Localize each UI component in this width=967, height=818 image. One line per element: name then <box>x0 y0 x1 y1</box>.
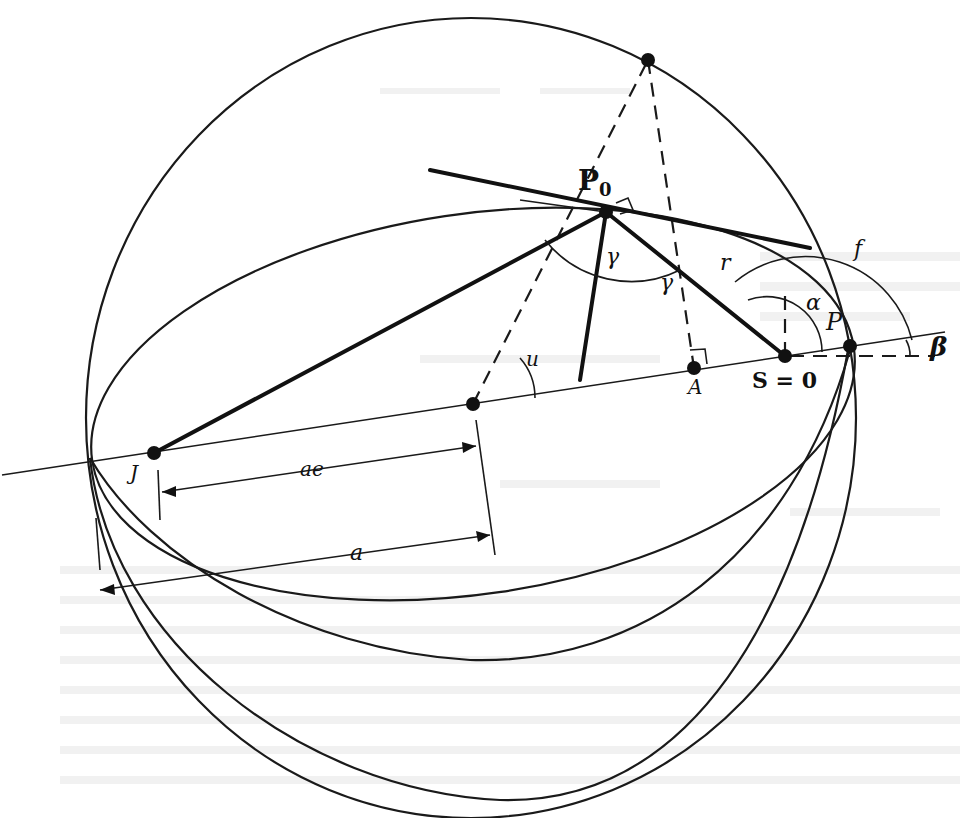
orbit-diagram: P0 P S = 0 A J ae a u γ γ r f α β <box>0 0 967 818</box>
label-a-point: A <box>686 375 702 399</box>
label-beta: β <box>929 332 947 362</box>
label-s: S = 0 <box>752 367 817 393</box>
point-s <box>778 349 792 363</box>
label-gamma-mid: γ <box>660 270 674 295</box>
label-p0: P0 <box>578 164 612 200</box>
point-p0 <box>599 205 613 219</box>
label-a: a <box>350 540 363 565</box>
point-a <box>687 361 701 375</box>
arrowhead-a-left <box>100 584 115 595</box>
line-p0-down <box>580 212 606 380</box>
label-u: u <box>526 347 539 371</box>
angle-beta-arc <box>906 340 910 356</box>
tangent-at-p0 <box>430 170 810 248</box>
point-p <box>843 339 857 353</box>
line-j-to-p0 <box>154 212 606 453</box>
arrowhead-ae-right <box>462 442 476 453</box>
label-r: r <box>720 250 732 275</box>
point-top <box>641 53 655 67</box>
label-p: P <box>825 308 843 336</box>
arrowhead-a-right <box>476 531 490 542</box>
angle-f-arc <box>735 257 912 340</box>
point-j <box>147 446 161 460</box>
ae-left-tick <box>158 470 160 520</box>
lower-great-circle-arc <box>90 350 850 660</box>
auxiliary-circle <box>86 18 856 818</box>
label-j: J <box>126 461 139 485</box>
label-ae: ae <box>300 457 324 481</box>
dashed-center-to-top <box>473 60 648 404</box>
arrowhead-ae-left <box>162 486 176 497</box>
label-alpha: α <box>806 290 821 315</box>
point-center <box>466 397 480 411</box>
label-gamma-left: γ <box>606 244 620 269</box>
bleed-through-texture <box>60 88 960 784</box>
a-dimension-line <box>100 535 490 590</box>
line-p0-to-s <box>606 212 785 356</box>
